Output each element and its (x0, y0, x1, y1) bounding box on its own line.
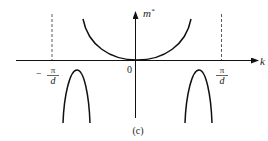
left-negative-mass-curve (63, 70, 90, 123)
origin-label: 0 (127, 64, 132, 75)
left-bound-numerator: π (51, 65, 56, 75)
figure-caption: (c) (132, 125, 143, 137)
x-axis-label: k (260, 55, 266, 67)
diagram-canvas: m* k 0 − π d π d (c) (0, 0, 268, 141)
left-bound-sign: − (36, 68, 42, 79)
right-bound-denominator: d (220, 75, 226, 86)
effective-mass-diagram: m* k 0 − π d π d (c) (0, 0, 268, 141)
y-axis-label: m* (143, 7, 155, 19)
central-positive-mass-curve (83, 19, 191, 60)
right-bound-numerator: π (220, 65, 225, 75)
right-negative-mass-curve (185, 70, 212, 123)
left-bound-denominator: d (51, 75, 57, 86)
